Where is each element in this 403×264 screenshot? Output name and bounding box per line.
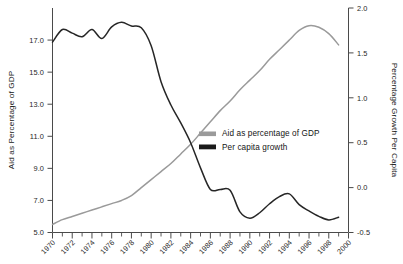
y-tick-label-left: 11.0 xyxy=(30,132,44,141)
x-tick-label: 1976 xyxy=(98,238,116,256)
y-tick-label-right: 1.5 xyxy=(357,49,368,58)
x-tick-label: 1978 xyxy=(118,238,136,256)
series-line-aid-as-percentage-of-gdp xyxy=(53,25,339,224)
series-line-per-capita-growth xyxy=(53,22,339,220)
chart-legend: Aid as percentage of GDP Per capita grow… xyxy=(199,129,320,151)
x-axis-labels: 1970197219741976197819801982198419861988… xyxy=(39,238,353,256)
x-tick-label: 1970 xyxy=(39,238,57,256)
x-tick-label: 1974 xyxy=(79,238,97,256)
y-tick-label-right: 0.0 xyxy=(357,183,368,192)
x-tick-label: 1982 xyxy=(158,238,176,256)
y-tick-label-left: 17.0 xyxy=(29,36,44,45)
y-tick-label-right: 1.0 xyxy=(357,94,368,103)
y-tick-label-left: 7.0 xyxy=(33,196,44,205)
chart-axes xyxy=(53,8,349,233)
y-axis-right-ticks: -0.50.00.51.01.52.0 xyxy=(349,4,371,238)
x-tick-label: 1994 xyxy=(276,238,294,256)
x-tick-label: 1984 xyxy=(177,238,195,256)
chart-svg: 5.07.09.011.013.015.017.0 -0.50.00.51.01… xyxy=(0,0,403,264)
x-tick-label: 1980 xyxy=(138,238,156,256)
legend-label-growth: Per capita growth xyxy=(222,143,288,152)
y-tick-label-right: 0.5 xyxy=(357,138,368,147)
x-tick-label: 1990 xyxy=(236,238,254,256)
chart-series xyxy=(53,22,339,224)
chart-figure: 5.07.09.011.013.015.017.0 -0.50.00.51.01… xyxy=(0,0,403,264)
x-tick-label: 1992 xyxy=(256,238,274,256)
y-tick-label-left: 15.0 xyxy=(29,68,44,77)
x-tick-label: 1988 xyxy=(217,238,235,256)
x-tick-label: 1986 xyxy=(197,238,215,256)
y-tick-label-right: -0.5 xyxy=(357,228,370,237)
x-tick-label: 1998 xyxy=(315,238,333,256)
y-tick-label-right: 2.0 xyxy=(357,4,368,13)
legend-swatch-aid xyxy=(199,132,216,137)
legend-swatch-growth xyxy=(199,145,216,150)
y-tick-label-left: 5.0 xyxy=(33,228,44,237)
y-axis-left-title: Aid as Percentage of GDP xyxy=(7,71,16,170)
x-tick-label: 1996 xyxy=(296,238,314,256)
y-axis-left-ticks: 5.07.09.011.013.015.017.0 xyxy=(29,36,52,237)
legend-label-aid: Aid as percentage of GDP xyxy=(222,129,320,138)
y-tick-label-left: 13.0 xyxy=(29,100,44,109)
x-axis-ticks xyxy=(53,233,349,239)
x-tick-label: 1972 xyxy=(59,238,77,256)
y-tick-label-left: 9.0 xyxy=(33,164,44,173)
y-axis-right-title: Percentage Growth Per Capita xyxy=(390,63,399,178)
x-tick-label: 2000 xyxy=(335,238,353,256)
